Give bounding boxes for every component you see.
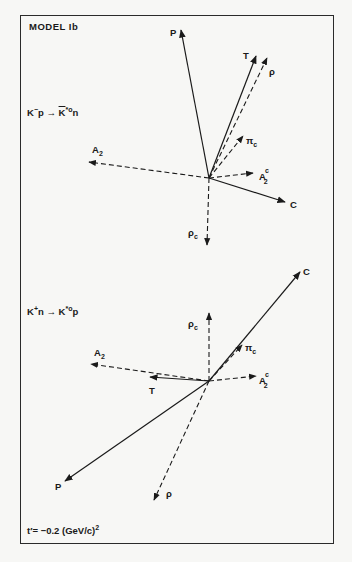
vector-arrow-top-7: [207, 178, 209, 245]
vector-arrow-top-1: [209, 56, 256, 178]
vector-label-bottom-0: C: [303, 266, 310, 277]
vector-arrow-bottom-5: [209, 376, 256, 381]
vector-arrow-bottom-3: [91, 364, 209, 381]
vector-label-top-2: ρ: [269, 66, 275, 77]
vector-arrow-bottom-7: [154, 381, 209, 500]
vector-arrow-top-0: [181, 30, 209, 178]
vector-label-bottom-7: ρ: [166, 488, 172, 499]
vector-label-top-4: A2: [92, 144, 103, 157]
vector-label-top-7: ρc: [188, 227, 198, 240]
vector-label-top-3: πc: [246, 135, 257, 148]
vector-label-top-5: Ac2: [259, 167, 269, 185]
vector-arrow-bottom-6: [65, 381, 209, 481]
vector-arrow-top-6: [209, 178, 285, 202]
vector-label-bottom-3: A2: [94, 347, 105, 360]
vector-label-bottom-1: ρc: [188, 318, 198, 331]
vector-arrow-top-5: [209, 173, 253, 178]
vector-diagram: PTρπcA2Ac2CρcCρcπcA2TAc2Pρ: [0, 0, 352, 562]
vector-label-bottom-5: Ac2: [259, 371, 269, 389]
vector-label-bottom-6: P: [55, 481, 62, 492]
vector-arrow-top-4: [89, 162, 209, 178]
vector-label-bottom-2: πc: [245, 342, 256, 355]
vector-arrow-bottom-4: [150, 377, 209, 381]
vector-label-top-6: C: [290, 199, 297, 210]
vector-arrow-top-3: [209, 136, 243, 178]
vector-label-top-0: P: [170, 27, 177, 38]
vector-arrow-top-2: [209, 58, 267, 178]
vector-label-top-1: T: [243, 50, 249, 61]
vector-label-bottom-4: T: [149, 385, 155, 396]
vector-arrow-bottom-0: [209, 272, 300, 381]
